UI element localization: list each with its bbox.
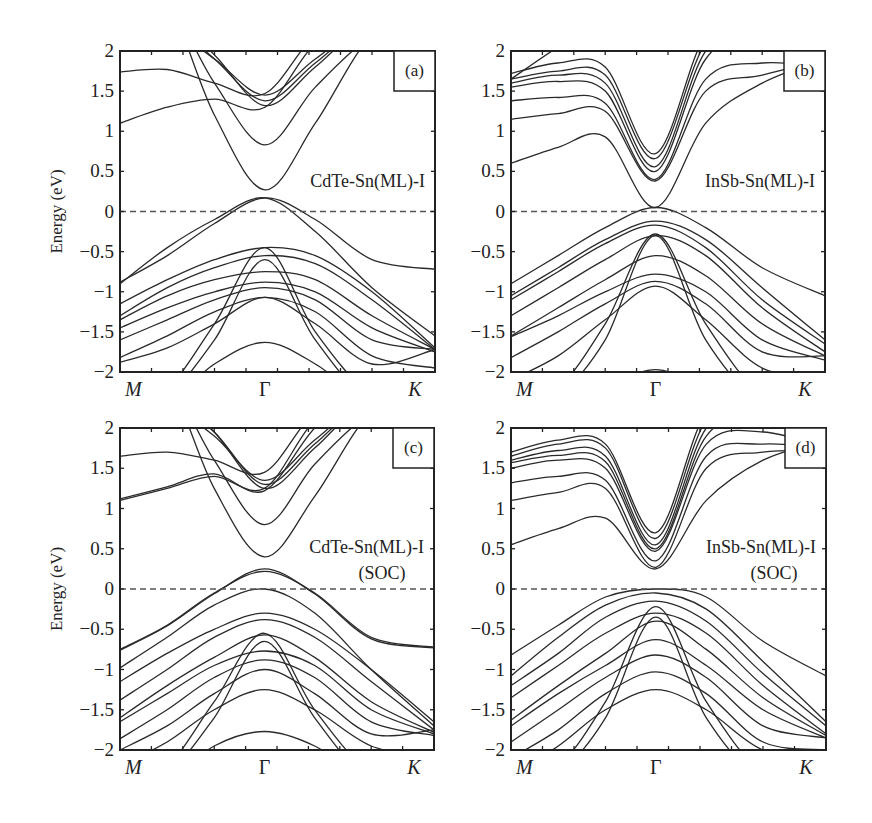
k-point-label-gamma: Γ (650, 756, 662, 778)
band-line (120, 282, 435, 352)
band-line (120, 272, 435, 350)
band-line (120, 633, 434, 798)
panel-c: 21.510.50−0.5−1−1.5−2MΓKEnergy (eV)(c)Cd… (47, 364, 434, 799)
panel-b: 21.510.50−0.5−1−1.5−2MΓK(b)InSb-Sn(ML)-I (471, 0, 825, 420)
band-line (120, 3, 435, 95)
k-point-label-m: M (124, 756, 143, 778)
panel-a: 21.510.50−0.5−1−1.5−2MΓKEnergy (eV)(a)Cd… (47, 0, 435, 420)
y-tick-label: 2 (496, 417, 506, 438)
plot-frame (120, 51, 435, 372)
y-tick-label: 2 (105, 417, 115, 438)
panel-d: 21.510.50−0.5−1−1.5−2MΓK(d)InSb-Sn(ML)-I… (471, 364, 826, 799)
panel-tag: (c) (404, 438, 423, 457)
band-line (120, 248, 435, 421)
soc-label: (SOC) (358, 563, 405, 584)
band-line (511, 601, 826, 726)
band-line (120, 641, 434, 798)
band-line (511, 256, 825, 356)
band-line (120, 364, 434, 475)
y-tick-label: 0.5 (481, 160, 505, 181)
panel-tag: (d) (796, 438, 816, 457)
y-tick-label: 1.5 (481, 457, 505, 478)
system-label: InSb-Sn(ML)-I (706, 537, 816, 558)
band-line (120, 342, 435, 420)
k-point-label-k: K (798, 756, 814, 778)
y-tick-label: −2 (94, 739, 114, 760)
bands (511, 0, 825, 420)
band-line (511, 607, 826, 799)
band-line (511, 59, 825, 181)
band-line (511, 234, 825, 420)
band-line (120, 0, 435, 96)
y-tick-label: −0.5 (471, 241, 505, 262)
y-tick-label: 1 (105, 498, 115, 519)
y-axis-title: Energy (eV) (47, 547, 66, 631)
band-line (511, 370, 825, 421)
k-point-label-gamma: Γ (650, 378, 662, 400)
band-line (511, 236, 825, 352)
band-line (511, 2, 825, 79)
y-tick-label: 1.5 (481, 80, 505, 101)
y-axis-title: Energy (eV) (47, 169, 66, 253)
k-point-label-k: K (797, 378, 813, 400)
band-line (120, 288, 435, 350)
band-line (120, 620, 434, 730)
band-line (120, 651, 434, 734)
k-point-label-m: M (515, 378, 534, 400)
y-tick-label: −1.5 (80, 321, 114, 342)
y-tick-label: −1.5 (471, 321, 505, 342)
band-line (120, 198, 435, 336)
k-point-label-k: K (407, 378, 423, 400)
y-tick-label: −0.5 (80, 241, 114, 262)
y-tick-label: 2 (496, 40, 506, 61)
band-line (120, 364, 434, 557)
y-tick-label: 1 (496, 498, 506, 519)
band-line (120, 380, 434, 489)
band-line (511, 364, 826, 533)
system-label: CdTe-Sn(ML)-I (310, 171, 425, 192)
y-tick-label: −1 (485, 659, 505, 680)
band-line (120, 0, 435, 123)
y-tick-label: 0 (105, 578, 115, 599)
band-line (120, 260, 435, 421)
y-tick-label: 0.5 (481, 538, 505, 559)
y-tick-label: 1.5 (90, 80, 114, 101)
band-line (511, 672, 826, 758)
band-line (120, 380, 434, 485)
y-tick-label: −1 (94, 281, 114, 302)
band-line (120, 0, 435, 145)
y-tick-label: 0 (496, 578, 506, 599)
y-tick-label: 0.5 (90, 160, 114, 181)
band-line (511, 640, 826, 738)
k-point-label-m: M (124, 378, 143, 400)
y-tick-label: −1.5 (471, 699, 505, 720)
band-line (511, 589, 826, 676)
y-tick-label: −0.5 (80, 618, 114, 639)
band-line (120, 247, 435, 347)
y-tick-label: 2 (105, 40, 115, 61)
band-line (120, 371, 434, 525)
plot-frame (511, 51, 825, 372)
y-tick-label: −1 (94, 659, 114, 680)
band-line (120, 589, 434, 726)
y-tick-label: −1.5 (80, 699, 114, 720)
k-point-label-k: K (406, 756, 422, 778)
system-label: InSb-Sn(ML)-I (705, 171, 815, 192)
y-tick-label: 1.5 (90, 457, 114, 478)
k-point-label-gamma: Γ (259, 378, 271, 400)
k-point-label-gamma: Γ (259, 756, 271, 778)
panel-tag: (a) (405, 61, 424, 80)
y-tick-label: −1 (485, 281, 505, 302)
y-tick-label: −2 (485, 739, 505, 760)
bands (120, 0, 435, 420)
y-tick-label: −2 (94, 361, 114, 382)
band-line (511, 63, 825, 180)
panels: 21.510.50−0.5−1−1.5−2MΓKEnergy (eV)(a)Cd… (47, 0, 826, 798)
band-structure-figure: 21.510.50−0.5−1−1.5−2MΓKEnergy (eV)(a)Cd… (0, 0, 872, 823)
y-tick-label: 0 (105, 201, 115, 222)
soc-label: (SOC) (750, 563, 797, 584)
band-line (511, 19, 825, 167)
y-tick-label: 1 (105, 120, 115, 141)
band-line (120, 613, 434, 722)
y-tick-label: 0.5 (90, 538, 114, 559)
